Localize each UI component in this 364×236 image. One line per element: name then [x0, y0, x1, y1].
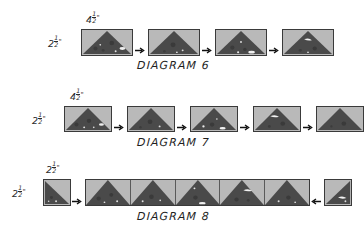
arrow-right-icon — [202, 47, 212, 56]
caption-diagram-7: DIAGRAM 7 — [137, 136, 211, 149]
arrow-right-icon — [114, 124, 124, 133]
arrow-right-icon — [72, 198, 82, 207]
arrow-right-icon — [269, 47, 279, 56]
fabric-piece — [190, 106, 238, 132]
fabric-piece — [64, 106, 112, 132]
arrow-right-icon — [303, 124, 313, 133]
width-label-diagram-6: 412" — [86, 11, 100, 25]
height-label-diagram-8: 212" — [12, 185, 26, 199]
width-label-diagram-7: 412" — [70, 88, 84, 102]
arrow-right-icon — [240, 124, 250, 133]
strip-segment — [176, 180, 221, 205]
fabric-piece — [282, 29, 334, 56]
height-label-diagram-6: 212" — [48, 35, 62, 49]
fabric-piece — [81, 29, 133, 56]
end-square-piece — [324, 179, 352, 206]
fabric-piece — [215, 29, 267, 56]
arrow-left-icon — [311, 198, 321, 207]
pieced-strip — [85, 179, 310, 206]
strip-segment — [220, 180, 265, 205]
strip-segment — [86, 180, 131, 205]
height-label-diagram-7: 212" — [32, 112, 46, 126]
fabric-piece — [316, 106, 364, 132]
caption-diagram-8: DIAGRAM 8 — [137, 210, 211, 223]
arrow-right-icon — [177, 124, 187, 133]
start-square-piece — [43, 179, 71, 206]
strip-segment — [131, 180, 176, 205]
width-label-diagram-8: 212" — [46, 161, 60, 175]
strip-segment — [265, 180, 309, 205]
arrow-right-icon — [135, 47, 145, 56]
fabric-piece — [253, 106, 301, 132]
caption-diagram-6: DIAGRAM 6 — [137, 59, 211, 72]
fabric-piece — [148, 29, 200, 56]
fabric-piece — [127, 106, 175, 132]
